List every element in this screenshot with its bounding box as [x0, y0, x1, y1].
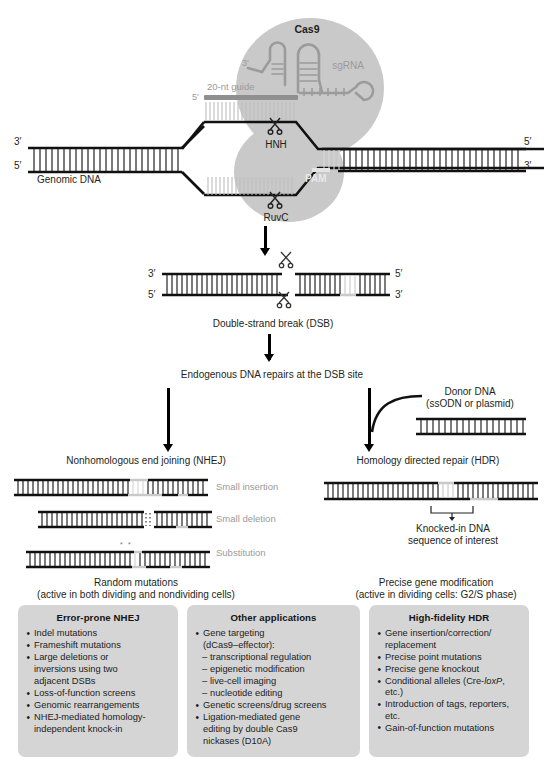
box-list-item: inversions using two	[26, 664, 170, 675]
box-heading-other-applications: Other applications	[195, 612, 352, 623]
right-top-prime-label: 5′	[524, 136, 531, 147]
dsb-dna	[0, 258, 544, 318]
nhej-outcome-small-insertion: Small insertion	[216, 481, 278, 492]
donor-dna-subtitle: (ssODN or plasmid)	[426, 398, 514, 409]
box-list-item: Conditional alleles (Cre-loxP, etc.)	[377, 676, 521, 699]
box-list-item: Introduction of tags, reporters, etc.	[377, 699, 521, 722]
box-error-prone-nhej: Error-prone NHEJ Indel mutationsFrameshi…	[18, 605, 178, 757]
sgrna-three-prime-label: 3′	[242, 58, 249, 69]
nhej-outcome-substitution: Substitution	[216, 547, 266, 558]
hnh-label: HNH	[265, 139, 287, 150]
donor-dna-duplex	[414, 414, 530, 440]
box-list-item: independent knock-in	[26, 724, 170, 735]
left-top-prime-label: 3′	[14, 136, 21, 147]
nhej-footer-line1: Random mutations	[94, 577, 178, 588]
nhej-title: Nonhomologous end joining (NHEJ)	[66, 455, 226, 466]
box-list-item: Indel mutations	[26, 628, 170, 639]
box-list-item: Genetic screens/drug screens	[195, 700, 352, 711]
dsb-scissors-bottom-icon	[276, 290, 294, 310]
arrow-to-hdr-head	[364, 444, 374, 452]
guide-label: 20-nt guide	[207, 81, 255, 92]
figure-canvas: Cas9 sgRNA 3′	[0, 0, 544, 766]
box-list-item: Large deletions or	[26, 652, 170, 663]
knocked-in-line1: Knocked-in DNA	[416, 523, 490, 534]
knocked-in-line2: sequence of interest	[408, 535, 498, 546]
hdr-repaired-duplex	[320, 477, 542, 505]
dsb-left-top-prime: 3′	[148, 268, 155, 279]
box-list-item: Gene insertion/correction/	[377, 628, 521, 639]
arrow-to-dsb-head	[260, 248, 270, 256]
arrow-to-nhej	[167, 388, 170, 448]
donor-dna-title: Donor DNA	[444, 386, 495, 397]
box-list-item: Precise point mutations	[377, 652, 521, 663]
genomic-dna-right-duplex	[316, 130, 544, 190]
box-other-applications: Other applications Gene targeting(dCas9–…	[187, 605, 360, 757]
right-bottom-prime-label: 3′	[524, 160, 531, 171]
box-list-item: nickases (D10A)	[195, 736, 352, 747]
donor-dna-panel: Donor DNA (ssODN or plasmid)	[396, 386, 544, 442]
box-list-item: Gain-of-function mutations	[377, 723, 521, 734]
pam-bar	[312, 168, 330, 172]
box-list-other-applications: Gene targeting(dCas9–effector):transcrip…	[195, 628, 352, 747]
hnh-scissors-icon	[266, 116, 286, 136]
box-list-item: NHEJ-mediated homology-	[26, 712, 170, 723]
box-list-item: Precise gene knockout	[377, 664, 521, 675]
nhej-panel: Nonhomologous end joining (NHEJ) Small i…	[0, 455, 280, 595]
box-list-item: editing by double Cas9	[195, 724, 352, 735]
nhej-small-deletion-duplex	[36, 507, 216, 533]
dsb-right-top-prime: 5′	[395, 268, 402, 279]
box-list-item: (dCas9–effector):	[195, 640, 352, 651]
svg-text:*: *	[120, 541, 123, 548]
repair-intro-caption: Endogenous DNA repairs at the DSB site	[181, 369, 363, 380]
box-list-item: replacement	[377, 640, 521, 651]
hdr-title: Homology directed repair (HDR)	[357, 455, 500, 466]
dsb-scissors-top-icon	[278, 250, 296, 270]
cas9-complex-panel: Cas9 sgRNA 3′	[0, 0, 544, 240]
box-list-item: adjacent DSBs	[26, 676, 170, 687]
arrow-to-nhej-head	[163, 444, 173, 452]
applications-boxes: Error-prone NHEJ Indel mutationsFrameshi…	[0, 605, 544, 763]
box-list-item: epigenetic modification	[195, 664, 352, 675]
nhej-small-insertion-duplex	[12, 475, 212, 501]
knocked-in-bracket	[428, 505, 478, 523]
nhej-footer-line2: (active in both dividing and nondividing…	[37, 589, 235, 600]
dsb-right-bottom-prime: 3′	[395, 289, 402, 300]
hdr-footer-line2: (active in dividing cells: G2/S phase)	[355, 589, 516, 600]
hdr-footer-line1: Precise gene modification	[379, 577, 494, 588]
arrow-to-repair-head	[264, 354, 274, 362]
pam-label: PAM	[305, 173, 326, 184]
box-list-item: Genomic rearrangements	[26, 700, 170, 711]
box-list-item: Gene targeting	[195, 628, 352, 639]
box-list-item: Frameshift mutations	[26, 640, 170, 651]
box-high-fidelity-hdr: High-fidelity HDR Gene insertion/correct…	[369, 605, 529, 757]
box-list-error-prone-nhej: Indel mutationsFrameshift mutationsLarge…	[26, 628, 170, 735]
box-list-item: live-cell imaging	[195, 676, 352, 687]
box-list-item: Loss-of-function screens	[26, 688, 170, 699]
dsb-panel: 3′ 5′ 5′ 3′ Double-strand break (DSB)	[0, 258, 544, 338]
box-list-item: nucleotide editing	[195, 688, 352, 699]
nhej-substitution-duplex: **	[24, 541, 214, 571]
box-list-high-fidelity-hdr: Gene insertion/correction/replacementPre…	[377, 628, 521, 734]
ruvc-label: RuvC	[263, 212, 288, 223]
box-heading-error-prone-nhej: Error-prone NHEJ	[26, 612, 170, 623]
box-heading-high-fidelity-hdr: High-fidelity HDR	[377, 612, 521, 623]
box-list-item: Ligation-mediated gene	[195, 712, 352, 723]
dsb-left-bottom-prime: 5′	[148, 289, 155, 300]
svg-text:*: *	[128, 541, 131, 548]
nhej-outcome-small-deletion: Small deletion	[216, 513, 276, 524]
hdr-panel: Homology directed repair (HDR)	[300, 455, 544, 595]
dsb-caption: Double-strand break (DSB)	[213, 318, 334, 329]
ruvc-scissors-icon	[266, 190, 286, 210]
box-list-item: transcriptional regulation	[195, 652, 352, 663]
